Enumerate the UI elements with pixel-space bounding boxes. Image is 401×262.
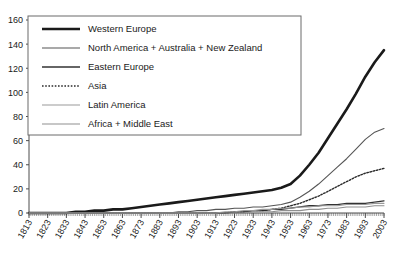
y-tick-label: 100 xyxy=(8,88,23,98)
y-tick-label: 20 xyxy=(13,184,23,194)
chart-legend: Western EuropeNorth America + Australia … xyxy=(28,16,301,135)
legend-label: Asia xyxy=(88,80,107,91)
y-tick-label: 140 xyxy=(8,40,23,50)
line-chart: 020406080100120140160 181318231833184318… xyxy=(0,0,401,262)
legend-label: Africa + Middle East xyxy=(88,118,173,129)
y-tick-label: 0 xyxy=(18,208,23,218)
legend-label: Latin America xyxy=(88,99,146,110)
y-tick-label: 40 xyxy=(13,160,23,170)
legend-label: Eastern Europe xyxy=(88,61,154,72)
legend-label: Western Europe xyxy=(88,23,156,34)
y-tick-label: 80 xyxy=(13,112,23,122)
legend-label: North America + Australia + New Zealand xyxy=(88,42,262,53)
chart-canvas: 020406080100120140160 181318231833184318… xyxy=(0,0,401,262)
y-tick-label: 160 xyxy=(8,15,23,25)
y-tick-label: 120 xyxy=(8,64,23,74)
legend-box xyxy=(28,16,301,135)
y-tick-label: 60 xyxy=(13,136,23,146)
